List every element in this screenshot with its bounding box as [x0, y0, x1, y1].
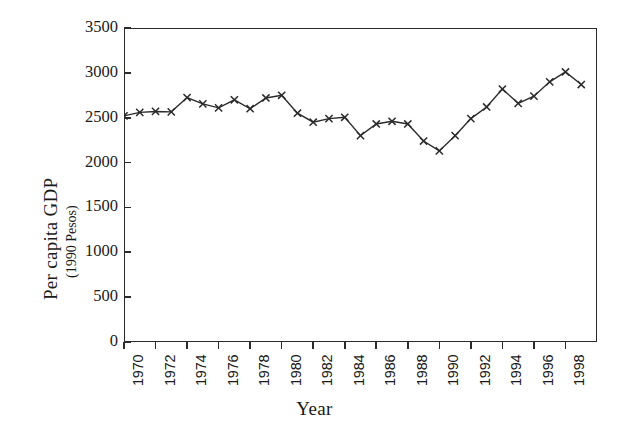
y-tick-mark — [124, 27, 131, 29]
y-tick-label: 500 — [32, 288, 118, 305]
x-tick-label: 1984 — [351, 355, 367, 386]
x-tick-label: 1994 — [508, 355, 524, 386]
data-point-marker — [247, 105, 254, 112]
data-point-marker — [515, 100, 522, 107]
data-point-marker — [436, 147, 443, 154]
x-tick-mark — [312, 342, 314, 349]
x-tick-mark — [155, 342, 157, 349]
x-tick-mark — [407, 342, 409, 349]
y-tick-label: 1500 — [32, 198, 118, 215]
y-tick-label: 3500 — [32, 19, 118, 36]
data-point-marker — [499, 85, 506, 92]
y-tick-label: 2000 — [32, 154, 118, 171]
y-axis-tick-labels: 3500300025002000150010005000 — [26, 0, 118, 360]
x-tick-label: 1998 — [571, 355, 587, 386]
x-tick-mark — [249, 342, 251, 349]
x-tick-label: 1986 — [382, 355, 398, 386]
series-gdp-per-capita — [124, 28, 597, 342]
y-tick-mark — [124, 296, 131, 298]
x-tick-mark — [502, 342, 504, 349]
y-tick-label: 0 — [32, 333, 118, 350]
x-tick-label: 1976 — [225, 355, 241, 386]
x-tick-label: 1982 — [319, 355, 335, 386]
x-tick-label: 1972 — [162, 355, 178, 386]
x-tick-mark — [281, 342, 283, 349]
data-point-marker — [183, 94, 190, 101]
data-point-marker — [357, 132, 364, 139]
data-point-marker — [467, 115, 474, 122]
x-tick-mark — [218, 342, 220, 349]
x-tick-mark — [439, 342, 441, 349]
x-tick-mark — [375, 342, 377, 349]
x-tick-label: 1974 — [193, 355, 209, 386]
data-point-marker — [578, 81, 585, 88]
data-point-marker — [530, 93, 537, 100]
data-point-marker — [420, 137, 427, 144]
series-markers — [124, 68, 585, 154]
y-tick-label: 2500 — [32, 109, 118, 126]
x-tick-label: 1970 — [130, 355, 146, 386]
data-point-marker — [546, 78, 553, 85]
x-tick-mark — [565, 342, 567, 349]
chart-figure: Per capita GDP (1990 Pesos) 350030002500… — [0, 0, 629, 438]
y-tick-mark — [124, 251, 131, 253]
data-point-marker — [483, 103, 490, 110]
x-tick-label: 1990 — [445, 355, 461, 386]
y-tick-mark — [124, 162, 131, 164]
data-point-marker — [231, 96, 238, 103]
y-tick-label: 1000 — [32, 243, 118, 260]
y-tick-mark — [124, 117, 131, 119]
x-tick-mark — [533, 342, 535, 349]
x-tick-label: 1980 — [288, 355, 304, 386]
data-point-marker — [452, 132, 459, 139]
y-tick-mark — [124, 72, 131, 74]
x-tick-label: 1996 — [540, 355, 556, 386]
data-point-marker — [562, 68, 569, 75]
series-line — [124, 72, 581, 151]
x-tick-mark — [186, 342, 188, 349]
x-tick-mark — [470, 342, 472, 349]
y-tick-label: 3000 — [32, 64, 118, 81]
x-tick-mark — [344, 342, 346, 349]
data-point-marker — [294, 110, 301, 117]
x-tick-label: 1988 — [414, 355, 430, 386]
x-tick-label: 1992 — [477, 355, 493, 386]
x-tick-label: 1978 — [256, 355, 272, 386]
x-axis-title: Year — [0, 398, 629, 420]
y-tick-mark — [124, 207, 131, 209]
x-tick-mark — [123, 342, 125, 349]
y-tick-mark — [124, 341, 131, 343]
